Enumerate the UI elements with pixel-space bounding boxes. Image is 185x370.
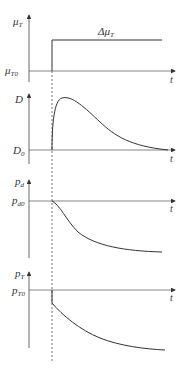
baseline-label: D0 xyxy=(12,144,25,158)
panel-d: D D0 t xyxy=(12,93,175,164)
baseline-label: pT0 xyxy=(11,284,25,298)
panel-pt: pT pT0 t xyxy=(11,267,175,350)
pd-curve xyxy=(52,201,162,252)
y-axis-label: pT xyxy=(14,267,26,281)
y-axis-label: D xyxy=(14,93,23,105)
x-axis-label: t xyxy=(170,203,173,214)
pt-curve xyxy=(52,290,165,350)
step-curve xyxy=(52,40,162,71)
delta-annotation: ΔμT xyxy=(97,25,115,39)
baseline-label: pd0 xyxy=(11,194,25,208)
y-axis-label: pd xyxy=(14,175,25,189)
x-axis-label: t xyxy=(170,292,173,303)
panel-pd: pd pd0 t xyxy=(11,175,175,258)
response-diagram: μT μT0 ΔμT t D D0 t pd pd0 t pT pT0 t xyxy=(0,0,185,370)
panel-mu-t: μT μT0 ΔμT t xyxy=(4,15,175,85)
d-curve xyxy=(52,98,168,150)
x-axis-label: t xyxy=(170,153,173,164)
baseline-label: μT0 xyxy=(4,64,18,78)
y-axis-label: μT xyxy=(12,15,24,29)
x-axis-label: t xyxy=(170,74,173,85)
